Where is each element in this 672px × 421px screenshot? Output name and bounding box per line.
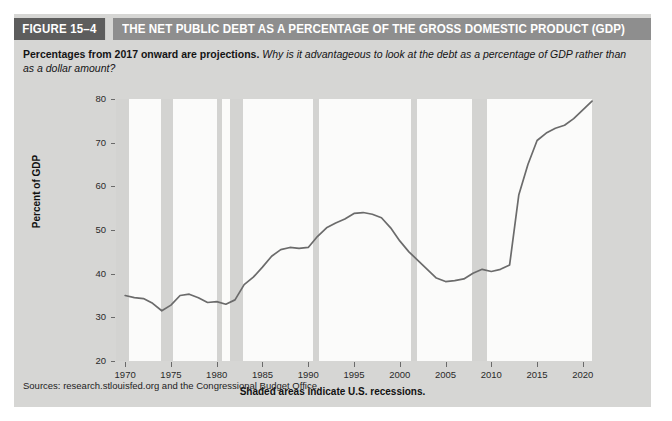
figure-title: THE NET PUBLIC DEBT AS A PERCENTAGE OF T…	[113, 18, 651, 40]
y-axis-tick-label: 80	[80, 93, 106, 104]
x-axis-tick-mark	[583, 362, 584, 367]
x-axis-tick-mark	[446, 362, 447, 367]
debt-series-line	[125, 101, 592, 311]
x-axis-tick-mark	[354, 362, 355, 367]
figure-title-text: THE NET PUBLIC DEBT AS A PERCENTAGE OF T…	[122, 22, 625, 36]
x-axis-tick-mark	[262, 362, 263, 367]
debt-line-chart	[116, 99, 592, 361]
figure-panel: FIGURE 15–4 THE NET PUBLIC DEBT AS A PER…	[14, 14, 651, 407]
sources-text: Sources: research.stlouisfed.org and the…	[23, 380, 320, 391]
x-axis-tick-label: 2000	[380, 369, 420, 380]
chart-plot-wrapper: Percent of GDP 20304050607080 1970197519…	[14, 76, 651, 376]
y-axis-tick-label: 60	[80, 180, 106, 191]
x-axis-tick-label: 2005	[426, 369, 466, 380]
caption-bold-text: Percentages from 2017 onward are project…	[23, 48, 259, 60]
x-axis-tick-label: 2010	[471, 369, 511, 380]
x-axis-tick-label: 2015	[517, 369, 557, 380]
x-axis-tick-label: 1995	[334, 369, 374, 380]
figure-caption: Percentages from 2017 onward are project…	[23, 47, 640, 75]
y-axis-tick-mark	[111, 317, 115, 318]
x-axis-tick-mark	[537, 362, 538, 367]
x-axis-tick-label: 1970	[105, 369, 145, 380]
y-axis-tick-mark	[111, 361, 115, 362]
x-axis-tick-mark	[491, 362, 492, 367]
y-axis-tick-mark	[111, 186, 115, 187]
y-axis-tick-label: 30	[80, 311, 106, 322]
x-axis-tick-label: 1980	[197, 369, 237, 380]
y-axis-tick-label: 20	[80, 355, 106, 366]
y-axis-tick-label: 70	[80, 137, 106, 148]
y-axis-title: Percent of GDP	[31, 155, 42, 228]
y-axis-tick-label: 50	[80, 224, 106, 235]
figure-header: FIGURE 15–4 THE NET PUBLIC DEBT AS A PER…	[14, 18, 651, 40]
x-axis-tick-mark	[217, 362, 218, 367]
x-axis-tick-label: 2020	[563, 369, 603, 380]
y-axis-tick-mark	[111, 230, 115, 231]
x-axis-tick-label: 1985	[242, 369, 282, 380]
x-axis-tick-label: 1990	[288, 369, 328, 380]
plot-area	[116, 99, 592, 361]
x-axis-tick-mark	[308, 362, 309, 367]
x-axis-tick-mark	[400, 362, 401, 367]
y-axis-tick-mark	[111, 99, 115, 100]
y-axis-tick-mark	[111, 143, 115, 144]
x-axis-tick-mark	[125, 362, 126, 367]
x-axis-tick-mark	[171, 362, 172, 367]
y-axis-tick-label: 40	[80, 268, 106, 279]
y-axis-tick-mark	[111, 274, 115, 275]
figure-number-badge: FIGURE 15–4	[14, 18, 105, 40]
x-axis-tick-label: 1975	[151, 369, 191, 380]
